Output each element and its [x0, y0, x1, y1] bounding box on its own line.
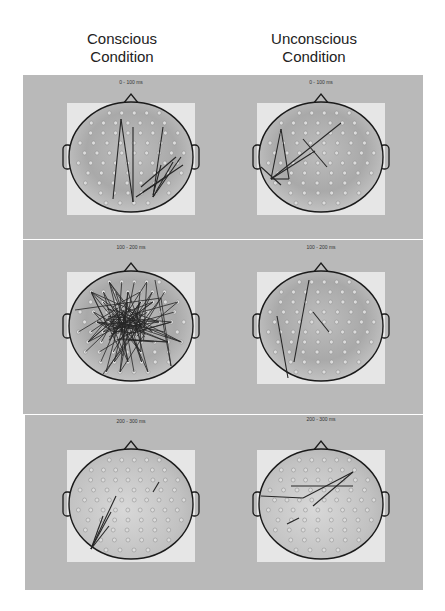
electrode [273, 350, 277, 354]
electrode [335, 151, 339, 155]
electrode [310, 280, 314, 284]
electrode [159, 488, 163, 492]
electrode [366, 300, 370, 304]
electrode [287, 350, 291, 354]
electrode [335, 111, 339, 115]
electrode [310, 320, 314, 324]
electrode [347, 151, 351, 155]
electrode [175, 508, 179, 512]
electrode [126, 121, 130, 125]
electrode [316, 340, 320, 344]
electrode [357, 528, 361, 532]
electrode [132, 498, 136, 502]
electrode [107, 498, 111, 502]
electrode [151, 478, 155, 482]
electrode [316, 191, 320, 195]
electrode [126, 468, 130, 472]
electrode [362, 310, 366, 314]
electrode [329, 518, 333, 522]
electrode [266, 161, 270, 165]
electrode [167, 528, 171, 532]
electrode [322, 458, 326, 462]
electrode [322, 370, 326, 374]
electrode [114, 121, 118, 125]
electrode [169, 498, 173, 502]
head-map-unconscious-200-300 [253, 441, 389, 562]
electrode [146, 201, 150, 205]
electrode [295, 141, 299, 145]
electrode [153, 350, 157, 354]
electrode [104, 201, 108, 205]
electrode [349, 141, 353, 145]
electrode [282, 488, 286, 492]
electrode [273, 498, 277, 502]
electrode [95, 498, 99, 502]
electrode [304, 468, 308, 472]
electrode [357, 181, 361, 185]
electrode [359, 320, 363, 324]
electrode [295, 488, 299, 492]
electrode [163, 508, 167, 512]
electrode [89, 161, 93, 165]
electrode [294, 548, 298, 552]
topographic-maps [0, 0, 445, 611]
electrode [353, 330, 357, 334]
electrode [310, 498, 314, 502]
electrode [328, 508, 332, 512]
electrode [126, 478, 130, 482]
electrode [309, 141, 313, 145]
electrode [347, 498, 351, 502]
electrode [343, 181, 347, 185]
electrode [266, 508, 270, 512]
electrode [365, 508, 369, 512]
electrode [145, 488, 149, 492]
electrode [151, 508, 155, 512]
electrode [163, 161, 167, 165]
electrode [163, 468, 167, 472]
electrode [357, 360, 361, 364]
electrode [353, 468, 357, 472]
electrode [291, 131, 295, 135]
electrode [119, 488, 123, 492]
electrode [153, 360, 157, 364]
head-outline [259, 271, 383, 381]
electrode [150, 121, 154, 125]
electrode [309, 310, 313, 314]
electrode [353, 121, 357, 125]
electrode [366, 478, 370, 482]
electrode [126, 518, 130, 522]
electrode [308, 548, 312, 552]
electrode [114, 131, 118, 135]
electrode [341, 508, 345, 512]
electrode [182, 320, 186, 324]
electrode [89, 131, 93, 135]
electrode [322, 201, 326, 205]
electrode [163, 121, 167, 125]
electrode [89, 478, 93, 482]
electrode [101, 161, 105, 165]
electrode [353, 161, 357, 165]
head-outline [69, 449, 193, 559]
electrode [341, 300, 345, 304]
electrode [316, 360, 320, 364]
head-outline [259, 102, 383, 212]
electrode [330, 360, 334, 364]
electrode [303, 161, 307, 165]
electrode [301, 350, 305, 354]
electrode [146, 548, 150, 552]
electrode [347, 458, 351, 462]
electrode [139, 518, 143, 522]
electrode [359, 151, 363, 155]
electrode [297, 458, 301, 462]
electrode [357, 191, 361, 195]
electrode [287, 181, 291, 185]
electrode [335, 320, 339, 324]
electrode [343, 518, 347, 522]
electrode [86, 518, 90, 522]
electrode [328, 161, 332, 165]
electrode [291, 300, 295, 304]
electrode [349, 310, 353, 314]
electrode [336, 201, 340, 205]
electrode [107, 111, 111, 115]
electrode [112, 538, 116, 542]
